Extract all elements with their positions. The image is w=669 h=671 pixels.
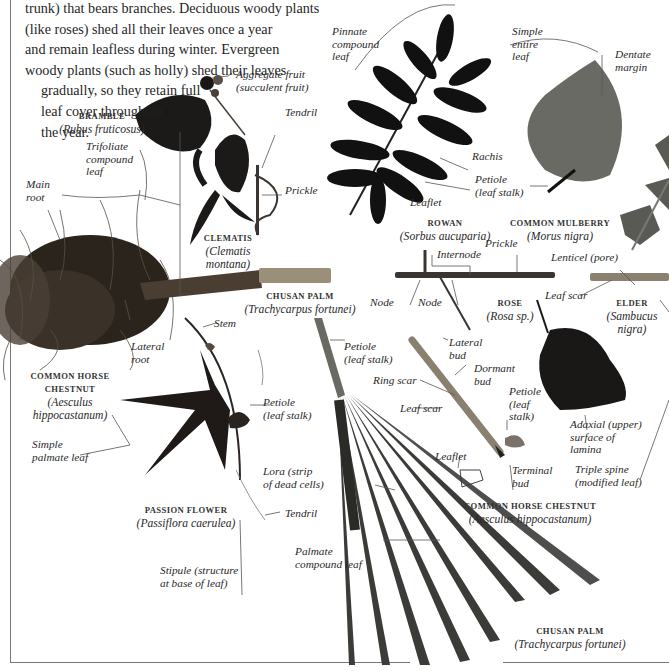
caption-bramble: BRAMBLE (Rubus fruticosus): [52, 110, 152, 136]
label-simple-palmate-leaf: Simplepalmate leaf: [32, 438, 88, 463]
label-simple-entire-leaf: Simpleentireleaf: [512, 25, 543, 63]
label-triple-spine: Triple spine(modified leaf): [575, 463, 642, 488]
label-node-1: Node: [370, 296, 394, 309]
label-lenticel: Lenticel (pore): [551, 251, 618, 264]
label-adaxial-surface: Adaxial (upper)surface oflamina: [570, 418, 642, 456]
caption-passion-flower: PASSION FLOWER (Passiflora caerulea): [126, 504, 246, 530]
holly-image: [620, 135, 669, 250]
label-dentate-margin: Dentatemargin: [615, 48, 651, 73]
label-internode: Internode: [437, 248, 481, 261]
label-lateral-bud: Lateralbud: [449, 336, 482, 361]
caption-horse-chestnut-root: COMMON HORSE CHESTNUT (Aesculus hippocas…: [20, 370, 120, 422]
mulberry-image: [528, 60, 623, 192]
label-terminal-bud: Terminalbud: [512, 464, 552, 489]
caption-elder: ELDER (Sambucus nigra): [602, 297, 662, 336]
caption-chusan-palm-leaf: CHUSAN PALM (Trachycarpus fortunei): [505, 625, 635, 651]
label-petiole-passion: Petiole(leaf stalk): [263, 396, 312, 421]
label-prickle-rose: Prickle: [485, 237, 518, 250]
label-aggregate-fruit: Aggregate fruit(succulent fruit): [236, 68, 308, 93]
label-stem: Stem: [214, 317, 236, 330]
caption-mulberry: COMMON MULBERRY (Morus nigra): [505, 217, 615, 243]
label-main-root: Mainroot: [26, 178, 50, 203]
label-dormant-bud: Dormantbud: [474, 362, 515, 387]
label-palmate-compound-leaf: Palmatecompound leaf: [295, 545, 362, 570]
label-lateral-root: Lateralroot: [131, 340, 164, 365]
label-leaflet-rowan: Leaflet: [410, 196, 441, 209]
caption-horse-chestnut-twig: COMMON HORSE CHESTNUT (Aesculus hippocas…: [460, 500, 600, 526]
clematis-image: [190, 134, 277, 245]
caption-chusan-palm-stem: CHUSAN PALM (Trachycarpus fortunei): [240, 290, 360, 316]
label-pinnate-compound-leaf: Pinnatecompoundleaf: [332, 25, 379, 63]
label-node-2: Node: [418, 296, 442, 309]
label-stipule: Stipule (structureat base of leaf): [160, 564, 238, 589]
label-tendril-bottom: Tendril: [285, 507, 317, 520]
label-rachis: Rachis: [472, 150, 503, 163]
label-trifoliate-compound-leaf: Trifoliatecompoundleaf: [86, 140, 133, 178]
label-tendril-top: Tendril: [285, 106, 317, 119]
label-petiole-twig: Petiole(leafstalk): [509, 385, 541, 423]
label-petiole-palm: Petiole(leaf stalk): [344, 340, 393, 365]
chusan-palm-stem-image: [259, 268, 331, 283]
caption-rose: ROSE (Rosa sp.): [480, 297, 540, 323]
label-petiole-mulberry: Petiole(leaf stalk): [475, 173, 524, 198]
label-ring-scar: Ring scar: [373, 374, 417, 387]
label-leaf-scar-twig: Leaf scar: [400, 402, 442, 415]
label-lora: Lora (stripof dead cells): [263, 465, 324, 490]
caption-clematis: CLEMATIS (Clematis montana): [198, 232, 258, 271]
label-leaflet-twig: Leaflet: [435, 450, 466, 463]
label-prickle-bramble: Prickle: [285, 184, 318, 197]
label-leaf-scar-elder: Leaf scar: [545, 289, 587, 302]
